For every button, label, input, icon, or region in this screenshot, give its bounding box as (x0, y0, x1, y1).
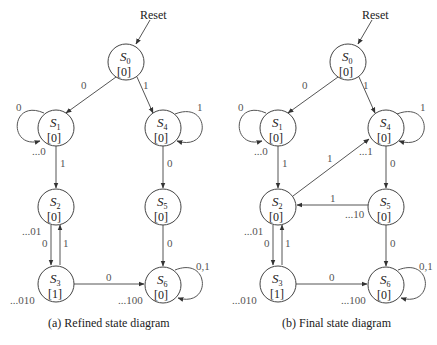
seq-label-s6: ...100 (118, 294, 143, 306)
state-s6: S6 [0] (368, 267, 404, 303)
seq-label-s2: ...01 (22, 225, 41, 237)
reset-label: Reset (362, 8, 389, 22)
edge-label-s2-s3: 0 (42, 237, 48, 249)
diagram-b: Reset 0 1 0 1 1 0 1 1 0 1 0 0 0,1 S0 (232, 8, 433, 330)
svg-text:[0]: [0] (154, 131, 168, 145)
edge-label-s3-s2: 1 (285, 237, 291, 249)
edge-label-s3-s2: 1 (63, 237, 69, 249)
svg-text:[0]: [0] (377, 210, 391, 224)
state-s0: S0 [0] (330, 44, 366, 80)
state-s0: S0 [0] (108, 44, 144, 80)
caption-a: (a) Refined state diagram (48, 316, 170, 330)
seq-label-s6: ...100 (341, 294, 366, 306)
edge-label-s1-s2: 1 (282, 157, 288, 169)
seq-label-s3: ...010 (10, 294, 35, 306)
seq-label-s2: ...01 (244, 225, 263, 237)
edge-label-s0-s4: 1 (143, 79, 149, 91)
state-diagrams-figure: Reset 0 1 0 1 1 0 0 1 0 0 0,1 S0 [0] (0, 0, 437, 345)
edge-label-s1-s2: 1 (60, 157, 66, 169)
edge-label-s1-self: 0 (238, 101, 244, 113)
svg-text:[0]: [0] (377, 288, 391, 302)
edge-label-s6-self: 0,1 (196, 260, 210, 272)
edge-label-s4-s5: 0 (390, 157, 396, 169)
state-s2: S2 [0] (260, 189, 296, 225)
seq-label-s5: ...10 (345, 208, 365, 220)
edge-s0-s1 (288, 77, 338, 113)
seq-label-s4: ...1 (359, 145, 373, 157)
edge-label-s3-s6: 0 (106, 271, 112, 283)
edge-label-s2-s3: 0 (264, 237, 270, 249)
edge-label-s5-s2: 1 (330, 192, 336, 204)
diagram-a: Reset 0 1 0 1 1 0 0 1 0 0 0,1 S0 [0] (10, 8, 210, 330)
state-s5: S5 [0] (368, 189, 404, 225)
edge-label-s4-self: 1 (420, 101, 426, 113)
edge-label-s5-s6: 0 (167, 237, 173, 249)
state-s4: S4 [0] (368, 110, 404, 146)
state-s5: S5 [0] (145, 189, 181, 225)
state-s6: S6 [0] (145, 267, 181, 303)
svg-text:[1]: [1] (48, 287, 62, 301)
edge-s2-s4 (293, 139, 369, 196)
seq-label-s3: ...010 (232, 294, 257, 306)
svg-text:[0]: [0] (117, 65, 131, 79)
edge-label-s4-s5: 0 (167, 157, 173, 169)
edge-label-s6-self: 0,1 (419, 260, 433, 272)
edge-label-s2-s4: 1 (327, 152, 333, 164)
svg-text:[0]: [0] (339, 65, 353, 79)
state-s1: S1 [0] (38, 110, 74, 146)
reset-label: Reset (140, 8, 167, 22)
edge-label-s5-s6: 0 (390, 237, 396, 249)
seq-label-s1: ...0 (32, 145, 46, 157)
edge-s0-s1 (66, 77, 116, 113)
edge-label-s0-s1: 0 (302, 79, 308, 91)
state-s4: S4 [0] (145, 110, 181, 146)
svg-text:[0]: [0] (269, 210, 283, 224)
state-s2: S2 [0] (38, 189, 74, 225)
reset-arrow (358, 20, 372, 44)
svg-text:[0]: [0] (47, 210, 61, 224)
edge-label-s4-self: 1 (197, 101, 203, 113)
svg-text:[0]: [0] (154, 210, 168, 224)
seq-label-s1: ...0 (254, 145, 268, 157)
state-s3: S3 [1] (38, 266, 74, 302)
svg-text:[0]: [0] (47, 131, 61, 145)
edge-label-s0-s1: 0 (81, 79, 87, 91)
reset-arrow (136, 20, 150, 44)
svg-text:[1]: [1] (270, 287, 284, 301)
caption-b: (b) Final state diagram (282, 316, 392, 330)
state-s3: S3 [1] (260, 266, 296, 302)
svg-text:[0]: [0] (377, 131, 391, 145)
state-s1: S1 [0] (260, 110, 296, 146)
edge-label-s0-s4: 1 (363, 79, 369, 91)
edge-label-s1-self: 0 (16, 101, 22, 113)
edge-label-s3-s6: 0 (329, 271, 335, 283)
svg-text:[0]: [0] (269, 131, 283, 145)
svg-text:[0]: [0] (154, 288, 168, 302)
